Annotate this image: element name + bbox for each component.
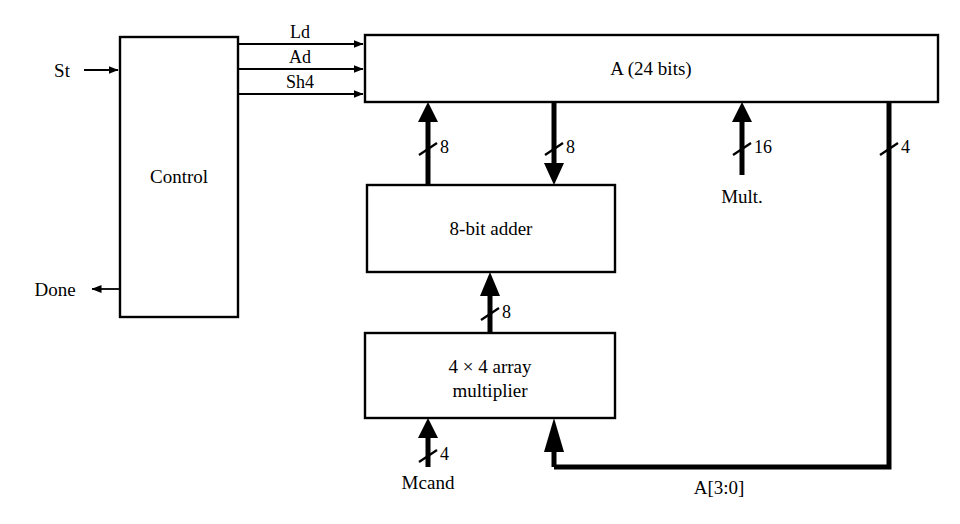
signal-label-ad: Ad (289, 48, 311, 66)
bus-width-label-mult-input: 16 (754, 138, 772, 156)
bus-multiplier-to-adder-arrowhead (480, 272, 500, 296)
signal-label-ld: Ld (290, 23, 310, 41)
bus-width-label-a-to-adder: 8 (566, 138, 575, 156)
bus-a-feedback-arrowhead (544, 418, 564, 452)
port-label-mcand: Mcand (402, 473, 455, 492)
bus-width-label-mcand-input: 4 (440, 445, 449, 463)
port-label-mult: Mult. (721, 187, 763, 206)
bus-width-label-adder-to-a: 8 (440, 138, 449, 156)
signal-label-sh4: Sh4 (286, 73, 314, 91)
port-label-st: St (54, 61, 70, 80)
bus-width-label-a-feedback: 4 (901, 138, 910, 156)
block-label-multiplier: 4 × 4 array multiplier (449, 355, 532, 403)
block-label-multiplier-line2: multiplier (449, 379, 532, 403)
block-label-multiplier-line1: 4 × 4 array (449, 355, 532, 379)
diagram-svg (0, 0, 960, 524)
block-label-a-register: A (24 bits) (610, 59, 691, 78)
bus-width-label-multiplier-to-adder: 8 (502, 303, 511, 321)
block-label-control: Control (150, 167, 208, 186)
bus-a-to-adder-arrowhead (544, 163, 564, 185)
bus-label-a-feedback: A[3:0] (694, 478, 745, 497)
bus-adder-to-a-arrowhead (418, 102, 438, 122)
port-label-done: Done (34, 280, 75, 299)
bus-mcand-input-arrowhead (418, 418, 438, 438)
block-diagram-canvas: Control A (24 bits) 8-bit adder 4 × 4 ar… (0, 0, 960, 524)
bus-mult-input-arrowhead (732, 102, 752, 122)
block-label-adder: 8-bit adder (450, 219, 533, 238)
